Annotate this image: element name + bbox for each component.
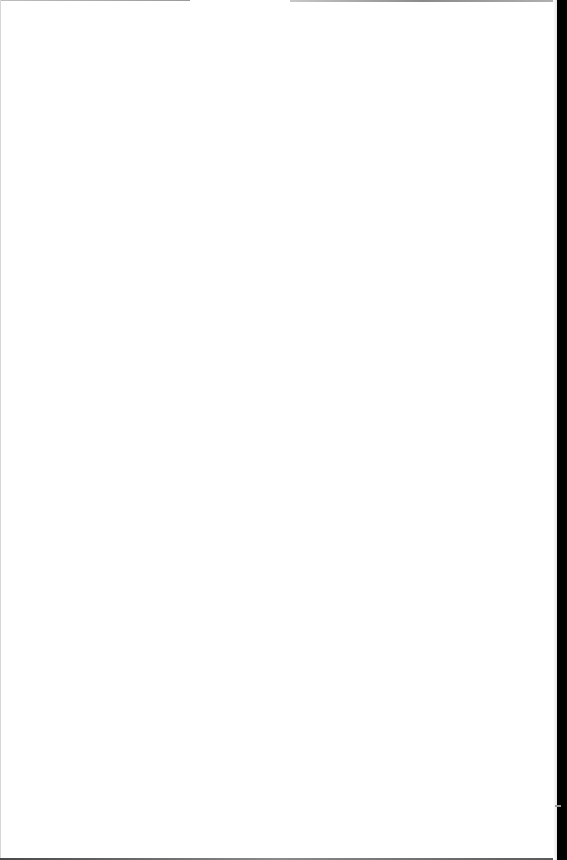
page-top-edge-left <box>0 0 190 1</box>
page-top-edge-right <box>290 0 555 2</box>
scan-artifact <box>555 805 561 807</box>
blank-page <box>0 0 555 860</box>
scan-right-border <box>557 0 567 860</box>
page-left-edge <box>0 0 1 860</box>
